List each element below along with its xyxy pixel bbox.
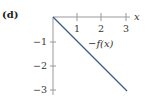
x-axis-label: x <box>134 11 140 22</box>
x-tick-label-3: 3 <box>123 23 129 34</box>
x-tick-label-1: 1 <box>74 23 80 34</box>
y-tick-label-neg3: −3 <box>33 84 47 95</box>
x-tick-label-2: 2 <box>98 23 104 34</box>
y-tick-label-neg1: −1 <box>33 36 47 47</box>
series-annotation: −f(x) <box>88 38 114 49</box>
y-tick-label-neg2: −2 <box>33 60 47 71</box>
chart: 1 2 3 −1 −2 −3 x −f(x) <box>0 0 148 98</box>
series-line-neg-f <box>53 17 127 91</box>
